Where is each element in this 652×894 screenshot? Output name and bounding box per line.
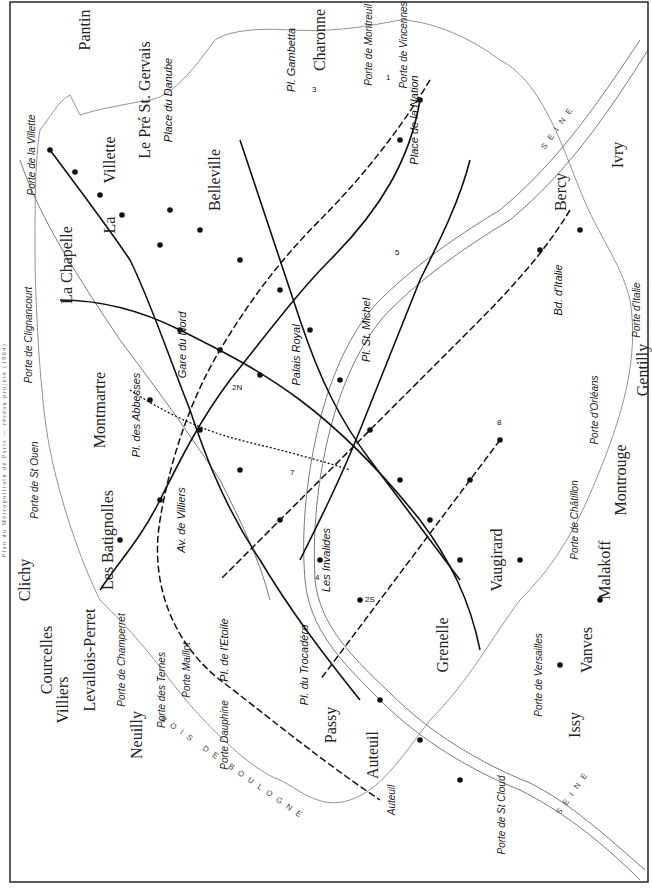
- porte-italie: Porte d'Italie: [631, 282, 642, 338]
- line-number: 2N: [232, 383, 242, 392]
- porte-maillot: Porte Maillot: [181, 641, 192, 698]
- line-number: 7: [290, 468, 295, 477]
- line-number: 5: [395, 248, 400, 257]
- hub-palais-royal: Palais Royal: [290, 324, 302, 386]
- district-villiers: Villiers: [54, 676, 71, 723]
- district-issy: Issy: [566, 712, 584, 738]
- district-gentilly: Gentilly: [634, 344, 652, 396]
- hub-pl-st-michel: Pl. St. Michel: [360, 297, 372, 362]
- district-pre-st-gervais: Le Pré St. Gervais: [136, 41, 153, 158]
- district-montmartre: Montmartre: [91, 372, 108, 448]
- porte-st-cloud: Porte de St Cloud: [496, 775, 507, 854]
- porte-montreuil: Porte de Montreuil: [363, 3, 374, 85]
- line-8: [320, 440, 500, 680]
- district-malakoff: Malakoff: [596, 540, 613, 600]
- hub-place-nation: Place de la Nation: [408, 75, 420, 164]
- district-vanves: Vanves: [578, 627, 595, 673]
- hub-invalides: Les Invalides: [320, 527, 332, 592]
- hub-bd-italie: Bd. d'Italie: [552, 264, 564, 315]
- porte-orleans: Porte d'Orléans: [589, 375, 600, 444]
- line-7: [130, 390, 350, 470]
- line-3: [240, 140, 460, 580]
- hub-pl-danube: Place du Danube: [162, 58, 174, 142]
- paris-metro-map: Plan du Métropolitain de Paris — réseau …: [0, 0, 652, 894]
- hub-pl-abbesses: Pl. des Abbesses: [130, 372, 142, 457]
- hub-gare-nord: Gare du Nord: [176, 311, 188, 379]
- district-montrouge: Montrouge: [612, 444, 630, 515]
- district-passy: Passy: [322, 707, 340, 743]
- district-auteuil: Auteuil: [364, 730, 381, 779]
- porte-champerret: Porte de Champerret: [116, 612, 127, 707]
- line-number: 3: [312, 85, 317, 94]
- district-charonne: Charonne: [311, 9, 328, 71]
- hub-pl-etoile: Pl. de l'Etoile: [218, 618, 230, 681]
- line-number: 1: [386, 73, 391, 82]
- porte-st-ouen: Porte de St Ouen: [29, 441, 40, 519]
- river-label-south: SEINE: [554, 767, 592, 816]
- district-vaugirard: Vaugirard: [488, 528, 506, 591]
- hub-pl-gambetta: Pl. Gambetta: [285, 28, 297, 92]
- map-caption: Plan du Métropolitain de Paris — réseau …: [1, 343, 8, 557]
- line-1: [100, 100, 420, 590]
- porte-clignancourt: Porte de Clignancourt: [23, 285, 34, 383]
- district-batignolles: Les Batignolles: [99, 490, 117, 590]
- district-la: La: [101, 217, 118, 234]
- porte-chatillon: Porte de Châtillon: [569, 480, 580, 560]
- district-ivry: Ivry: [609, 142, 627, 169]
- porte-villette: Porte de la Villette: [26, 114, 37, 195]
- district-grenelle: Grenelle: [434, 617, 451, 672]
- district-la-chapelle: La Chapelle: [58, 226, 76, 304]
- porte-versailles: Porte de Versailles: [533, 633, 544, 717]
- district-pantin: Pantin: [76, 10, 93, 51]
- porte-dauphine: Porte Dauphine: [219, 700, 230, 770]
- line-4: [60, 300, 480, 650]
- porte-ternes: Porte des Ternes: [156, 652, 167, 728]
- line-number: 4: [315, 573, 320, 582]
- metro-lines: [50, 80, 570, 800]
- hub-labels: Place de la Nation Pl. Gambetta Place du…: [130, 28, 564, 705]
- line-number: 2S: [365, 595, 375, 604]
- district-clichy: Clichy: [16, 559, 34, 602]
- hub-av-villiers: Av. de Villiers: [175, 487, 187, 554]
- line-6: [220, 210, 570, 580]
- porte-auteuil: Auteuil: [386, 784, 397, 816]
- district-courcelles: Courcelles: [38, 626, 55, 694]
- district-neuilly: Neuilly: [128, 711, 146, 759]
- line-number: 8: [497, 418, 502, 427]
- line-5: [300, 160, 470, 560]
- district-villette: Villette: [101, 136, 118, 183]
- district-levallois: Levallois-Perret: [81, 608, 98, 712]
- hub-pl-trocadero: Pl. du Trocadéro: [298, 625, 310, 706]
- district-bercy: Bercy: [552, 173, 570, 211]
- district-belleville: Belleville: [206, 149, 223, 211]
